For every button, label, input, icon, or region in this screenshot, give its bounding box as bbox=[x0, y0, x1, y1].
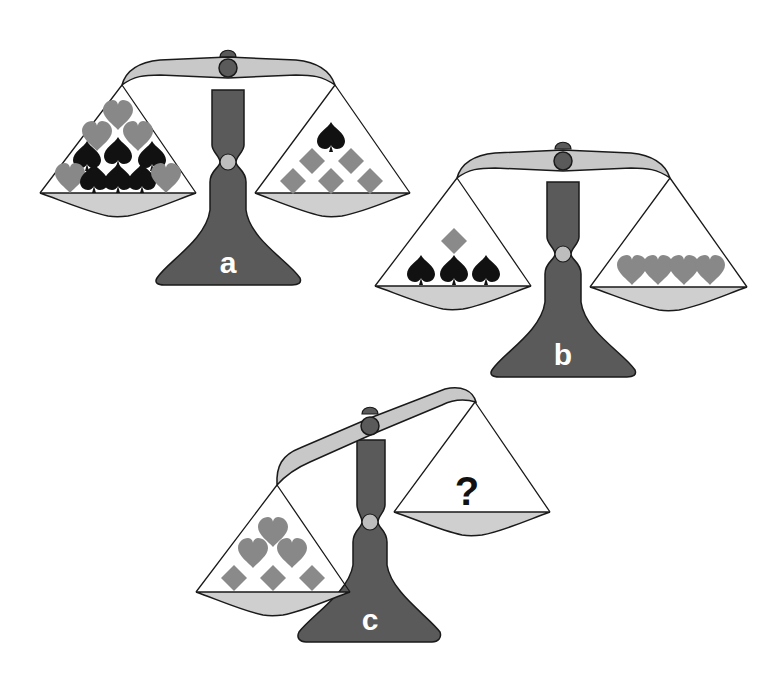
heart-icon bbox=[277, 538, 307, 568]
scale-a-pivot bbox=[219, 59, 237, 77]
heart-icon bbox=[55, 163, 85, 193]
scale-a-left-pan bbox=[40, 85, 196, 217]
scale-b-right-items bbox=[617, 255, 725, 285]
heart-icon bbox=[643, 255, 673, 285]
scale-a-left-items bbox=[55, 100, 181, 193]
scale-a-collar bbox=[220, 154, 236, 170]
diamond-icon bbox=[441, 228, 467, 254]
scale-b-label: b bbox=[554, 338, 572, 371]
spade-icon bbox=[80, 163, 108, 193]
scale-c: ? c bbox=[196, 388, 550, 642]
spade-icon bbox=[472, 255, 500, 285]
diamond-icon bbox=[221, 565, 247, 591]
balance-scale-puzzle: a b bbox=[0, 0, 760, 682]
scale-b-collar bbox=[555, 246, 571, 262]
scale-b-left-items bbox=[407, 228, 500, 285]
scale-c-right-pan: ? bbox=[394, 402, 550, 536]
scale-a-knob bbox=[220, 50, 236, 57]
heart-icon bbox=[617, 255, 647, 285]
spade-icon bbox=[104, 137, 132, 167]
heart-icon bbox=[151, 163, 181, 193]
scale-c-pivot bbox=[361, 417, 379, 435]
diamond-icon bbox=[299, 565, 325, 591]
diamond-icon bbox=[357, 168, 383, 194]
spade-icon bbox=[440, 255, 468, 285]
diamond-icon bbox=[299, 148, 325, 174]
unknown-weight-question-mark: ? bbox=[455, 469, 479, 513]
heart-icon bbox=[695, 255, 725, 285]
scale-b-right-pan bbox=[590, 178, 747, 311]
scale-c-collar bbox=[362, 514, 378, 530]
scale-b-knob bbox=[555, 142, 571, 149]
diamond-icon bbox=[318, 168, 344, 194]
scale-a-right-pan bbox=[255, 85, 410, 217]
heart-icon bbox=[238, 538, 268, 568]
scale-c-left-items bbox=[221, 517, 325, 591]
scale-a: a bbox=[40, 50, 410, 285]
spade-icon bbox=[407, 255, 435, 285]
heart-icon bbox=[669, 255, 699, 285]
scale-b-pivot bbox=[554, 152, 572, 170]
scale-a-label: a bbox=[220, 246, 237, 279]
diamond-icon bbox=[260, 565, 286, 591]
diamond-icon bbox=[280, 168, 306, 194]
diamond-icon bbox=[338, 148, 364, 174]
spade-icon bbox=[104, 163, 132, 193]
spade-icon bbox=[317, 122, 345, 152]
scale-b: b bbox=[375, 142, 747, 377]
scale-c-left-pan bbox=[196, 485, 350, 616]
scale-c-label: c bbox=[362, 603, 379, 636]
scale-c-knob bbox=[362, 407, 378, 414]
